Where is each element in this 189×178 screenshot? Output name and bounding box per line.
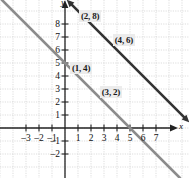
svg-text:3: 3 [102, 133, 107, 143]
point-label-2-8: (2, 8) [79, 10, 101, 22]
svg-text:6: 6 [55, 45, 60, 55]
svg-text:–2: –2 [50, 149, 61, 159]
coordinate-plane-graph: –3–2–11234567–2–112345678 x y (2, 8) (4,… [0, 0, 189, 178]
svg-text:4: 4 [55, 71, 60, 81]
svg-text:1: 1 [55, 110, 60, 120]
x-axis-arrow [170, 125, 178, 132]
graph-canvas: –3–2–11234567–2–112345678 [0, 0, 189, 178]
svg-text:–1: –1 [50, 136, 61, 146]
svg-text:–3: –3 [20, 133, 31, 143]
svg-text:6: 6 [141, 133, 146, 143]
svg-text:2: 2 [55, 97, 60, 107]
svg-text:1: 1 [76, 133, 81, 143]
svg-text:7: 7 [55, 32, 60, 42]
point-label-4-6: (4, 6) [113, 34, 135, 46]
svg-text:2: 2 [89, 133, 94, 143]
svg-text:5: 5 [128, 133, 133, 143]
x-axis-label: x [179, 121, 183, 131]
svg-text:7: 7 [154, 133, 159, 143]
svg-text:8: 8 [55, 19, 60, 29]
svg-text:5: 5 [55, 58, 60, 68]
svg-text:4: 4 [115, 133, 120, 143]
point-label-1-4: (1, 4) [70, 62, 92, 74]
svg-text:–2: –2 [33, 133, 44, 143]
point-label-3-2: (3, 2) [100, 86, 122, 98]
svg-text:3: 3 [55, 84, 60, 94]
y-axis-label: y [61, 0, 65, 7]
